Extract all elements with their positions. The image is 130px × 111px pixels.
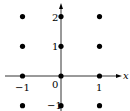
- origin-label: 0: [52, 79, 58, 90]
- lattice-point: [20, 103, 25, 108]
- lattice-point: [58, 73, 63, 78]
- y-axis-arrow-icon: [59, 3, 63, 9]
- x-axis-arrow-icon: [116, 74, 122, 78]
- y-tick-pos2: 2: [52, 12, 58, 23]
- x-tick-neg1: −1: [15, 82, 30, 93]
- x-axis-label: x: [123, 70, 129, 81]
- y-tick-neg1: −1: [47, 100, 62, 111]
- lattice-point: [20, 44, 25, 49]
- lattice-point: [58, 44, 63, 49]
- lattice-point: [97, 73, 102, 78]
- lattice-point: [97, 14, 102, 19]
- y-tick-pos1: 1: [52, 41, 58, 52]
- lattice-point: [97, 103, 102, 108]
- lattice-diagram: x 0 −1 1 −1 1 2: [0, 0, 130, 111]
- lattice-point: [58, 14, 63, 19]
- x-tick-pos1: 1: [96, 82, 102, 93]
- lattice-point: [20, 14, 25, 19]
- lattice-point: [97, 44, 102, 49]
- lattice-point: [20, 73, 25, 78]
